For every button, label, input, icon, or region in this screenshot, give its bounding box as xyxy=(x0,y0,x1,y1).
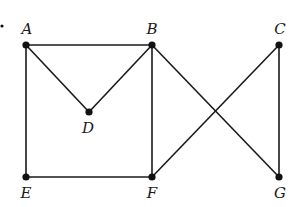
node-label-b: B xyxy=(145,20,157,38)
node-d xyxy=(85,108,92,115)
node-e xyxy=(22,173,29,180)
edge-d-b xyxy=(89,45,152,112)
node-label-c: C xyxy=(274,20,286,38)
node-label-f: F xyxy=(146,184,158,202)
margin-marker-dot xyxy=(0,24,3,27)
edge-a-d xyxy=(26,45,89,112)
node-f xyxy=(148,173,155,180)
node-g xyxy=(275,173,282,180)
edges-group xyxy=(26,45,279,177)
node-label-a: A xyxy=(20,20,33,38)
node-c xyxy=(275,41,282,48)
node-a xyxy=(22,41,29,48)
node-label-g: G xyxy=(274,184,286,202)
graph-diagram: ABCDEFG xyxy=(0,0,300,207)
node-label-d: D xyxy=(81,119,94,137)
node-b xyxy=(148,41,155,48)
node-label-e: E xyxy=(20,184,32,202)
